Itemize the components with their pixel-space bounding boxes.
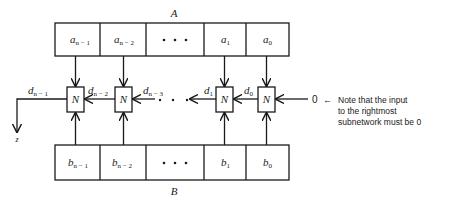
carry-d-n-2: dn − 2 xyxy=(88,84,108,98)
carry-d-n-1: dn − 1 xyxy=(28,84,48,98)
register-b-label: B xyxy=(171,185,178,197)
subnetwork-0: N xyxy=(258,87,275,112)
subnetwork-n-2: N xyxy=(115,87,132,112)
subnetwork-1: N xyxy=(216,87,233,112)
svg-text:N: N xyxy=(71,93,80,105)
comparator-network-diagram: A an − 1 an − 2 a1 a0 N xyxy=(0,0,451,202)
b-to-n-arrows xyxy=(76,113,267,145)
subnetwork-n-1: N xyxy=(67,87,84,112)
carry-d-n-3: dn − 3 xyxy=(143,84,163,98)
note-line-1: Note that the input xyxy=(338,95,408,105)
note-line-2: to the rightmost xyxy=(338,106,397,116)
register-a-frame xyxy=(55,23,289,56)
a-to-n-arrows xyxy=(76,56,267,86)
register-b: bn − 1 bn − 2 b1 b0 B xyxy=(55,145,289,197)
carry-d-0: d0 xyxy=(244,84,254,98)
input-zero: 0 xyxy=(312,94,318,105)
output-z-label: z xyxy=(14,135,19,144)
svg-text:N: N xyxy=(262,93,271,105)
register-a-label: A xyxy=(170,7,178,19)
register-a: A an − 1 an − 2 a1 a0 xyxy=(55,7,289,56)
svg-text:N: N xyxy=(119,93,128,105)
carry-d-1: d1 xyxy=(204,84,214,98)
note-line-3: subnetwork must be 0 xyxy=(338,117,421,127)
register-b-frame xyxy=(55,145,289,180)
note: ← Note that the input to the rightmost s… xyxy=(323,95,421,127)
svg-text:N: N xyxy=(220,93,229,105)
note-arrow: ← xyxy=(323,95,332,105)
